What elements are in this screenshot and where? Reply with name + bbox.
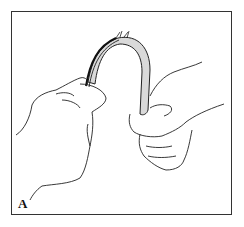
panel-label: A bbox=[18, 196, 27, 212]
illustration bbox=[0, 0, 244, 227]
left-hand bbox=[16, 78, 106, 200]
bent-strip bbox=[86, 31, 150, 115]
